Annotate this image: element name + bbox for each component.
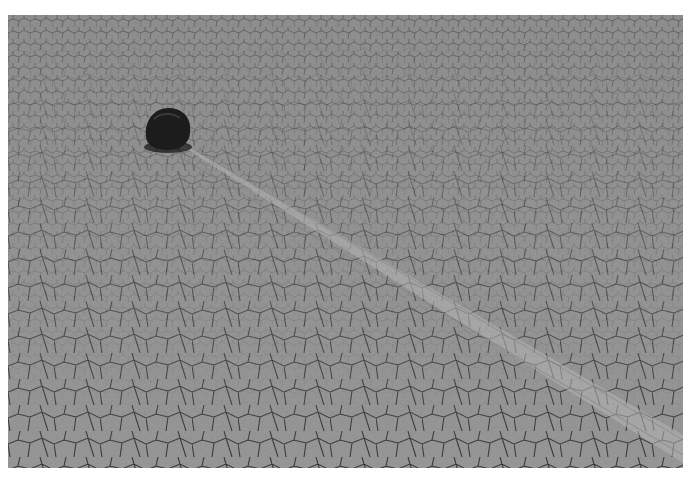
playa-scene (8, 15, 683, 468)
photograph (8, 15, 683, 468)
